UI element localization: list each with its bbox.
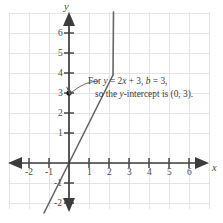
y-tick-label-6: 6 xyxy=(58,29,63,39)
x-tick-label--1: -1 xyxy=(45,168,53,178)
y-axis xyxy=(63,12,75,212)
y-tick-label-3: 3 xyxy=(58,89,63,99)
x-tick-label-6: 6 xyxy=(187,168,192,178)
y-tick-label-4: 4 xyxy=(58,69,63,79)
x-tick-label-5: 5 xyxy=(167,168,172,178)
annotation-text: For y = 2x + 3, b = 3, so the y-intercep… xyxy=(88,75,216,101)
annotation-line-2: so the y-intercept is (0, 3). xyxy=(88,88,216,101)
annotation-l2-end: -intercept is (0, 3). xyxy=(124,89,194,99)
grid-lines xyxy=(9,12,209,209)
x-tick-label-3: 3 xyxy=(127,168,132,178)
annotation-l1-prefix: For xyxy=(88,76,103,86)
y-tick-label--1: -1 xyxy=(54,179,62,189)
x-axis-label: x xyxy=(212,163,217,174)
x-tick-label--2: -2 xyxy=(25,168,33,178)
y-tick-label-1: 1 xyxy=(58,129,63,139)
graph-canvas xyxy=(0,0,223,223)
x-tick-label-4: 4 xyxy=(147,168,152,178)
annotation-l1-after: + 3, xyxy=(126,76,145,86)
y-axis-label: y xyxy=(64,2,69,13)
y-tick-label-5: 5 xyxy=(58,49,63,59)
x-tick-label-2: 2 xyxy=(107,168,112,178)
coordinate-graph-figure: -2 -1 1 2 3 4 5 6 6 5 4 3 2 1 -1 -2 y x … xyxy=(0,0,223,223)
annotation-l1-mid: = 2 xyxy=(108,76,123,86)
y-tick-label-2: 2 xyxy=(58,109,63,119)
annotation-line-1: For y = 2x + 3, b = 3, xyxy=(88,75,216,88)
plotted-line-upper xyxy=(113,12,114,75)
annotation-l2-prefix: so the xyxy=(95,89,119,99)
x-tick-label-1: 1 xyxy=(87,168,92,178)
y-tick-label--2: -2 xyxy=(54,199,62,209)
annotation-l1-end: = 3, xyxy=(150,76,167,86)
